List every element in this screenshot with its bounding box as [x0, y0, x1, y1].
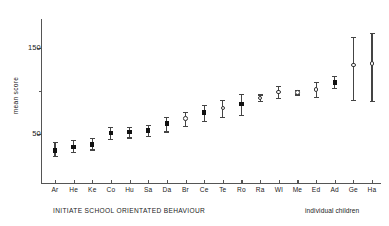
error-bar-cap-upper — [314, 82, 319, 83]
x-tick-mark — [297, 180, 298, 184]
x-tick-mark — [335, 180, 336, 184]
error-bar-cap-upper — [71, 140, 76, 141]
error-bar-cap-lower — [71, 152, 76, 153]
x-tick-mark — [186, 180, 187, 184]
error-bar-cap-lower — [202, 121, 207, 122]
y-axis-line — [41, 19, 42, 184]
error-bar-cap-lower — [370, 101, 375, 102]
data-marker-ge — [351, 63, 356, 68]
error-bar-cap-lower — [351, 100, 356, 101]
error-bar-cap-lower — [127, 137, 132, 138]
x-tick-label-ro: Ro — [231, 186, 251, 193]
error-bar-cap-lower — [314, 97, 319, 98]
error-bar-cap-lower — [108, 139, 113, 140]
error-bar-cap-upper — [183, 112, 188, 113]
y-tick-label-wrap: 150 — [0, 44, 41, 52]
error-bar-cap-lower — [90, 149, 95, 150]
y-tick-mark-minor — [39, 91, 42, 92]
error-bar-cap-upper — [127, 127, 132, 128]
error-bar-cap-upper — [164, 117, 169, 118]
error-bar-cap-upper — [239, 94, 244, 95]
data-marker-ed — [314, 87, 319, 92]
data-marker-sa — [146, 128, 150, 132]
y-axis-label: mean score — [12, 66, 19, 126]
x-tick-label-me: Me — [287, 186, 307, 193]
y-tick-label-wrap: 50 — [0, 130, 41, 138]
error-bar-cap-lower — [332, 88, 337, 89]
data-marker-da — [165, 121, 169, 125]
data-marker-ro — [239, 102, 243, 106]
x-tick-label-ke: Ke — [82, 186, 102, 193]
error-bar-cap-lower — [239, 115, 244, 116]
error-bar-cap-upper — [220, 100, 225, 101]
x-tick-label-ge: Ge — [343, 186, 363, 193]
x-tick-label-ar: Ar — [45, 186, 65, 193]
error-bar-cap-lower — [146, 136, 151, 137]
data-marker-ce — [202, 110, 206, 114]
x-tick-label-ha: Ha — [362, 186, 382, 193]
error-bar-cap-upper — [332, 76, 337, 77]
error-bar-cap-lower — [220, 117, 225, 118]
y-tick-label: 50 — [15, 130, 41, 138]
x-tick-mark — [204, 180, 205, 184]
x-tick-label-he: He — [64, 186, 84, 193]
error-bar-cap-upper — [202, 105, 207, 106]
error-bar-cap-upper — [351, 37, 356, 38]
data-marker-ke — [90, 142, 94, 146]
data-marker-co — [109, 131, 113, 135]
x-tick-mark — [279, 180, 280, 184]
error-bar-cap-lower — [276, 98, 281, 99]
x-tick-label-da: Da — [157, 186, 177, 193]
x-tick-mark — [167, 180, 168, 184]
x-tick-mark — [130, 180, 131, 184]
x-tick-label-co: Co — [101, 186, 121, 193]
data-marker-ad — [333, 80, 337, 84]
data-marker-hu — [127, 130, 131, 134]
error-bar-cap-upper — [146, 125, 151, 126]
x-tick-mark — [55, 180, 56, 184]
error-bar — [371, 33, 372, 102]
error-bar-cap-lower — [164, 131, 169, 132]
x-tick-label-ce: Ce — [194, 186, 214, 193]
error-bar-cap-lower — [53, 156, 58, 157]
x-tick-mark — [241, 180, 242, 184]
error-bar-cap-upper — [370, 33, 375, 34]
x-tick-mark — [372, 180, 373, 184]
error-bar-cap-upper — [90, 138, 95, 139]
error-bar-cap-lower — [183, 126, 188, 127]
x-tick-label-ra: Ra — [250, 186, 270, 193]
data-marker-wl — [276, 90, 281, 95]
error-bar-cap-upper — [53, 142, 58, 143]
x-tick-label-wl: Wl — [269, 186, 289, 193]
x-tick-mark — [148, 180, 149, 184]
data-marker-ar — [53, 148, 57, 152]
error-bar-cap-upper — [276, 86, 281, 87]
x-tick-label-hu: Hu — [120, 186, 140, 193]
y-tick-label: 150 — [15, 44, 41, 52]
x-axis-caption-right: individual children — [305, 207, 359, 214]
error-bar-cap-upper — [108, 127, 113, 128]
x-tick-label-sa: Sa — [138, 186, 158, 193]
x-tick-mark — [260, 180, 261, 184]
error-bar-cap-lower — [258, 101, 263, 102]
x-tick-mark — [223, 180, 224, 184]
x-tick-mark — [353, 180, 354, 184]
data-marker-ra — [258, 96, 263, 101]
data-marker-he — [71, 145, 75, 149]
data-marker-me — [295, 90, 300, 95]
x-axis-caption-left: INITIATE SCHOOL ORIENTATED BEHAVIOUR — [53, 207, 205, 214]
x-tick-label-br: Br — [176, 186, 196, 193]
data-marker-te — [221, 106, 226, 111]
x-tick-mark — [74, 180, 75, 184]
x-tick-label-te: Te — [213, 186, 233, 193]
x-tick-mark — [316, 180, 317, 184]
x-tick-label-ad: Ad — [325, 186, 345, 193]
error-bar — [353, 37, 354, 100]
x-tick-label-ed: Ed — [306, 186, 326, 193]
x-tick-mark — [92, 180, 93, 184]
scatter-chart: mean score 50150 ArHeKeCoHuSaDaBrCeTeRoR… — [0, 0, 389, 226]
data-marker-br — [183, 116, 188, 121]
data-marker-ha — [370, 61, 375, 66]
x-tick-mark — [111, 180, 112, 184]
